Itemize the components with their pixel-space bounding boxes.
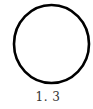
figure-caption: 1. 3 [0, 90, 93, 104]
circle-shape [0, 0, 93, 90]
figure: 1. 3 [0, 0, 93, 109]
